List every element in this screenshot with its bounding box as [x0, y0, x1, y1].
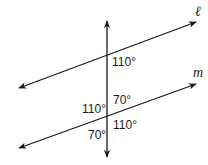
- angle-l-below-right: 110°: [112, 55, 136, 69]
- transversal-diagram: ℓ m 110° 70° 110° 110° 70°: [0, 0, 208, 165]
- diagram-canvas: ℓ m 110° 70° 110° 110° 70°: [0, 0, 208, 165]
- angle-m-below-left: 70°: [88, 128, 106, 142]
- angle-m-above-left: 110°: [82, 102, 106, 116]
- angle-m-above-right: 70°: [113, 93, 131, 107]
- angle-m-below-right: 110°: [113, 118, 137, 132]
- line-m-label: m: [193, 65, 203, 80]
- line-l-label: ℓ: [195, 4, 201, 19]
